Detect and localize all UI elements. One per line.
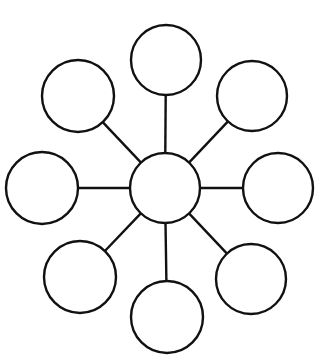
connector-line-top-left (103, 122, 141, 162)
center-circle (130, 153, 200, 223)
connector-line-top-right (189, 121, 228, 162)
connector-line-bottom-right (189, 213, 227, 253)
bubble-map-diagram (0, 0, 318, 362)
connector-line-bottom (166, 223, 167, 281)
circle-left (6, 152, 78, 224)
connector-line-bottom-left (105, 213, 141, 251)
circle-bottom (131, 281, 203, 353)
circle-right (243, 153, 313, 223)
circle-top (131, 25, 201, 95)
circle-bottom-right (216, 244, 286, 314)
circle-top-right (217, 61, 287, 131)
circle-nodes (6, 25, 313, 353)
circle-top-left (42, 60, 114, 132)
circle-bottom-left (44, 241, 116, 313)
